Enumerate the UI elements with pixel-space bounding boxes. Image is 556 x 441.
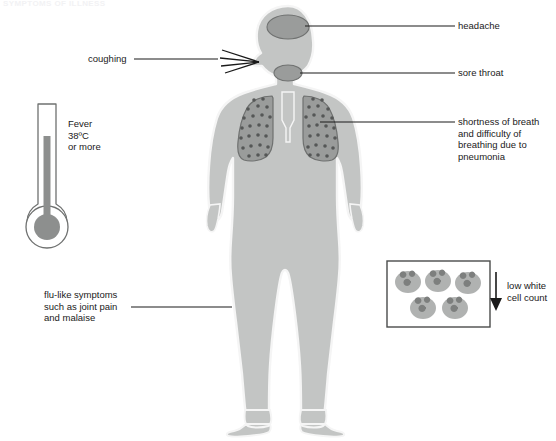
right-foot xyxy=(300,410,345,437)
label-pneumonia: shortness of breath and difficulty of br… xyxy=(458,116,554,162)
cough-spray-lines xyxy=(220,50,259,73)
diagram-canvas: SYMPTOMS OF ILLNESS xyxy=(0,0,556,441)
label-fever: Fever 38ºC or more xyxy=(68,118,101,153)
white-blood-cell-panel xyxy=(387,261,490,327)
right-hand xyxy=(350,204,363,232)
down-arrow-icon xyxy=(490,272,502,311)
label-flu-like-symptoms: flu-like symptoms such as joint pain and… xyxy=(44,289,136,324)
label-headache: headache xyxy=(458,20,500,32)
throat-region-marker xyxy=(274,65,302,81)
label-coughing: coughing xyxy=(88,53,127,65)
fever-thermometer xyxy=(26,104,68,248)
thermometer-mercury-column xyxy=(44,136,51,228)
left-foot xyxy=(227,410,272,437)
left-hand xyxy=(207,204,220,232)
label-low-white-cell-count: low white cell count xyxy=(507,280,547,303)
label-sore-throat: sore throat xyxy=(458,67,503,79)
head-region-marker xyxy=(267,15,309,39)
human-body-silhouette xyxy=(207,6,364,437)
